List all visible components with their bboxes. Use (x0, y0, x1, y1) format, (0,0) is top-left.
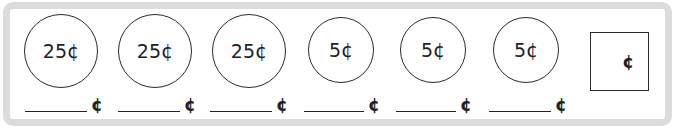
answer-blank-2[interactable]: ¢ (118, 100, 196, 114)
answer-line[interactable] (118, 111, 180, 112)
total-answer-box[interactable]: ¢ (590, 32, 649, 91)
cent-sign: ¢ (184, 97, 196, 114)
answer-blank-1[interactable]: ¢ (25, 100, 103, 114)
cent-sign: ¢ (622, 52, 634, 72)
answer-blank-5[interactable]: ¢ (396, 100, 472, 114)
coin-nickel-1: 5¢ (308, 17, 374, 83)
answer-line[interactable] (489, 111, 551, 112)
cent-sign: ¢ (460, 97, 472, 114)
coin-quarter-3: 25¢ (212, 14, 286, 88)
coin-nickel-3: 5¢ (493, 17, 559, 83)
cent-sign: ¢ (276, 97, 288, 114)
answer-line[interactable] (304, 111, 364, 112)
answer-blank-4[interactable]: ¢ (304, 100, 380, 114)
answer-blank-6[interactable]: ¢ (489, 100, 567, 114)
coin-nickel-2: 5¢ (400, 17, 466, 83)
cent-sign: ¢ (368, 97, 380, 114)
answer-line[interactable] (25, 111, 87, 112)
answer-line[interactable] (210, 111, 272, 112)
answer-blank-3[interactable]: ¢ (210, 100, 288, 114)
answer-line[interactable] (396, 111, 456, 112)
cent-sign: ¢ (91, 97, 103, 114)
cent-sign: ¢ (555, 97, 567, 114)
coin-quarter-1: 25¢ (24, 14, 98, 88)
coin-quarter-2: 25¢ (118, 14, 192, 88)
